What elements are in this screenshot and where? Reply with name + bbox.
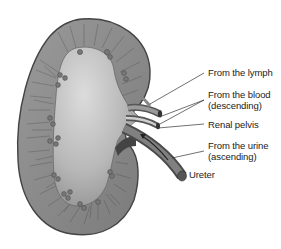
- label-text: Ureter: [189, 169, 215, 180]
- label-ureter: Ureter: [189, 170, 215, 181]
- label-subtext: (descending): [208, 101, 271, 112]
- label-subtext: (ascending): [208, 152, 268, 163]
- label-from-the-blood: From the blood (descending): [208, 90, 271, 111]
- label-text: From the urine: [208, 141, 268, 152]
- label-text: Renal pelvis: [208, 119, 259, 130]
- label-renal-pelvis: Renal pelvis: [208, 120, 259, 131]
- label-from-the-lymph: From the lymph: [208, 68, 273, 79]
- label-text: From the lymph: [208, 67, 273, 78]
- label-from-the-urine: From the urine (ascending): [208, 141, 268, 162]
- label-text: From the blood: [208, 90, 271, 101]
